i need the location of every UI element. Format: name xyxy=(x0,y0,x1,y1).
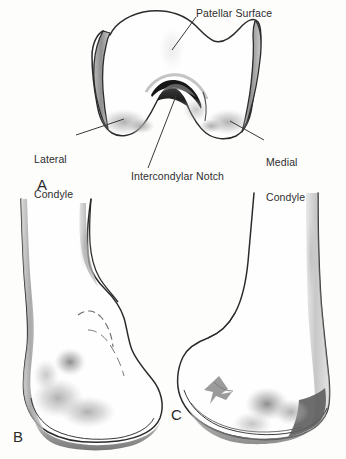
femur-b-mottle-4 xyxy=(33,359,59,391)
label-lateral-condyle-line1: Lateral xyxy=(34,154,73,166)
medial-condyle-mottle-2 xyxy=(199,119,223,133)
panel-a-graphic xyxy=(76,11,264,168)
label-medial-condyle-line1: Medial xyxy=(266,157,305,169)
anatomy-figure: Patellar Surface Lateral Condyle Medial … xyxy=(0,0,346,459)
panel-letter-a: A xyxy=(37,176,47,193)
label-medial-condyle: Medial Condyle xyxy=(266,134,305,226)
femur-c-mottle-3 xyxy=(232,412,272,436)
femur-c-mottle-2 xyxy=(273,399,309,425)
femur-b-shaft-mottle xyxy=(79,219,91,271)
femur-b-mottle-1 xyxy=(54,348,86,376)
notch-edge-mottle xyxy=(183,98,209,122)
patellar-groove-mottle xyxy=(159,27,185,71)
lateral-condyle-mottle-2 xyxy=(127,118,155,134)
panel-c-graphic xyxy=(178,193,330,444)
panel-letter-c: C xyxy=(171,406,182,423)
panel-letter-b: B xyxy=(13,428,23,445)
panel-b-graphic xyxy=(21,199,162,450)
label-intercondylar-notch: Intercondylar Notch xyxy=(131,171,224,183)
femur-illustration xyxy=(0,0,346,459)
femur-b-mottle-3 xyxy=(60,396,116,428)
label-patellar-surface: Patellar Surface xyxy=(196,8,272,20)
femur-c-shaft-mottle xyxy=(306,210,316,300)
label-medial-condyle-line2: Condyle xyxy=(266,192,305,204)
